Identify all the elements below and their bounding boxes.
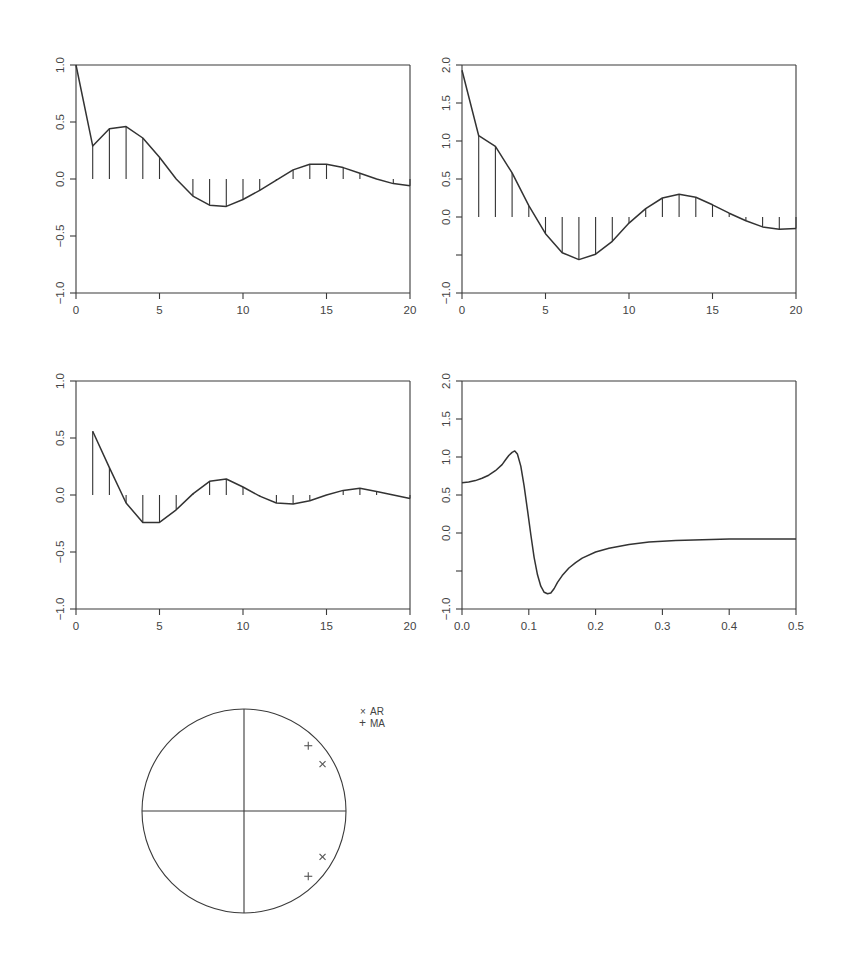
x-tick-label: 10	[623, 304, 636, 316]
y-tick-label: −1.0	[54, 598, 66, 621]
legend-ma-symbol: +	[359, 716, 366, 730]
x-tick-label: 0.5	[788, 620, 804, 632]
y-tick-label: 0.0	[54, 487, 66, 503]
x-tick-label: 10	[237, 620, 250, 632]
x-tick-label: 15	[706, 304, 719, 316]
y-tick-label: 1.5	[440, 95, 452, 111]
y-tick-label: 0.5	[54, 430, 66, 446]
legend: × AR + MA	[359, 706, 385, 730]
y-tick-label: 0.5	[440, 171, 452, 187]
y-tick-label: 0.0	[440, 525, 452, 541]
x-tick-label: 10	[237, 304, 250, 316]
y-tick-label: −1.0	[54, 282, 66, 305]
y-tick-label: −0.5	[54, 541, 66, 564]
x-tick-label: 5	[156, 304, 162, 316]
acf-panel: 05101520−1.0−0.50.00.51.0	[54, 57, 416, 316]
x-tick-label: 0	[73, 620, 79, 632]
pacf-panel: 05101520−1.0−0.50.00.51.0	[54, 373, 416, 632]
x-tick-label: 0.1	[521, 620, 537, 632]
x-tick-label: 0	[459, 304, 465, 316]
x-tick-label: 20	[790, 304, 803, 316]
y-tick-label: 0.0	[54, 171, 66, 187]
pacf-line	[93, 431, 410, 522]
x-tick-label: 0.0	[454, 620, 470, 632]
x-tick-label: 0.4	[721, 620, 738, 632]
legend-ma-label: MA	[370, 718, 385, 729]
x-tick-label: 0	[73, 304, 79, 316]
y-tick-label: 1.5	[440, 411, 452, 427]
y-tick-label: 1.0	[54, 57, 66, 73]
autocovariance-line	[462, 70, 796, 259]
figure: 05101520−1.0−0.50.00.51.0 05101520−1.00.…	[0, 0, 842, 956]
roots-panel: × AR + MA	[142, 706, 385, 913]
y-tick-label: 1.0	[440, 133, 452, 149]
x-tick-label: 5	[156, 620, 162, 632]
y-tick-label: −1.0	[440, 598, 452, 621]
x-tick-label: 5	[542, 304, 548, 316]
y-tick-label: −1.0	[440, 282, 452, 305]
y-tick-label: 1.0	[440, 449, 452, 465]
x-tick-label: 0.3	[654, 620, 670, 632]
y-tick-label: 2.0	[440, 373, 452, 389]
y-tick-label: 0.5	[54, 114, 66, 130]
x-tick-label: 20	[404, 304, 417, 316]
x-tick-label: 0.2	[588, 620, 604, 632]
x-tick-label: 15	[320, 304, 333, 316]
x-tick-label: 20	[404, 620, 417, 632]
spectrum-panel: 0.00.10.20.30.40.5−1.00.00.51.01.52.0	[440, 373, 804, 632]
autocovariance-panel: 05101520−1.00.00.51.01.52.0	[440, 57, 802, 316]
legend-ar-label: AR	[370, 706, 384, 717]
y-tick-label: 0.0	[440, 209, 452, 225]
y-tick-label: 1.0	[54, 373, 66, 389]
x-tick-label: 15	[320, 620, 333, 632]
y-tick-label: 0.5	[440, 487, 452, 503]
y-tick-label: −0.5	[54, 225, 66, 248]
y-tick-label: 2.0	[440, 57, 452, 73]
spectrum-line	[462, 451, 796, 594]
